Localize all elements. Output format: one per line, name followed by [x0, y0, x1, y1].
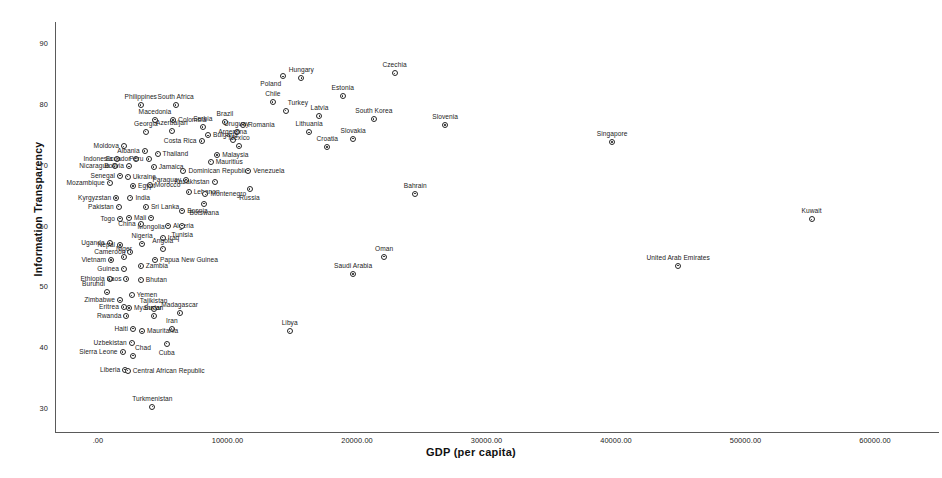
data-point-label: South Korea	[355, 108, 392, 115]
data-point-label: China	[118, 221, 135, 228]
data-point-label: Libya	[282, 320, 298, 327]
data-point-marker-icon	[442, 122, 448, 128]
data-point-marker-icon	[138, 277, 144, 283]
data-point-label: Peru	[129, 156, 143, 163]
data-point-label: Chad	[135, 345, 151, 352]
data-point-label: Brazil	[217, 111, 234, 118]
data-point-label: Estonia	[332, 85, 354, 92]
data-point-label: Philippines	[125, 94, 157, 101]
data-point-label: Madagascar	[161, 302, 198, 309]
data-point-marker-icon	[236, 143, 242, 149]
data-point-label: Angola	[152, 238, 173, 245]
data-point-marker-icon	[340, 93, 346, 99]
data-point-marker-icon	[179, 208, 185, 214]
data-point-label: Rwanda	[97, 313, 122, 320]
data-point-marker-icon	[173, 102, 179, 108]
data-point-marker-icon	[270, 99, 276, 105]
data-point-marker-icon	[212, 179, 218, 185]
data-point-label: Sudan	[144, 305, 163, 312]
data-point-marker-icon	[371, 116, 377, 122]
data-point-marker-icon	[155, 151, 161, 157]
data-point-marker-icon	[129, 292, 135, 298]
data-point-marker-icon	[381, 254, 387, 260]
data-point-marker-icon	[280, 73, 286, 79]
data-point-marker-icon	[180, 168, 186, 174]
data-point-marker-icon	[113, 195, 119, 201]
data-point-marker-icon	[108, 257, 114, 263]
data-point-marker-icon	[199, 138, 205, 144]
data-point-marker-icon	[116, 204, 122, 210]
data-point-label: Liberia	[100, 367, 120, 374]
data-point-marker-icon	[200, 124, 206, 130]
data-point-marker-icon	[130, 183, 136, 189]
data-point-marker-icon	[127, 195, 133, 201]
data-point-label: United Arab Emirates	[647, 255, 710, 262]
data-point-marker-icon	[675, 263, 681, 269]
data-point-label: Sri Lanka	[151, 204, 179, 211]
data-point-label: Mexico	[229, 135, 250, 142]
data-point-marker-icon	[130, 353, 136, 359]
plot-area: CzechiaHungaryPolandEstoniaChilePhilippi…	[0, 0, 942, 478]
data-point-label: Mauritania	[147, 328, 178, 335]
data-point-label: Egypt	[138, 183, 155, 190]
data-point-label: Serbia	[193, 116, 212, 123]
data-point-marker-icon	[283, 108, 289, 114]
data-point-marker-icon	[609, 139, 615, 145]
data-point-marker-icon	[125, 174, 131, 180]
data-point-label: Niger	[116, 246, 132, 253]
data-point-label: Singapore	[597, 131, 628, 138]
data-point-marker-icon	[117, 173, 123, 179]
data-point-label: Hungary	[289, 67, 314, 74]
data-point-label: Pakistan	[88, 204, 114, 211]
data-point-marker-icon	[125, 368, 131, 374]
data-point-marker-icon	[208, 159, 214, 165]
data-point-marker-icon	[165, 223, 171, 229]
data-point-marker-icon	[138, 221, 144, 227]
data-point-marker-icon	[298, 75, 304, 81]
data-point-label: Venezuela	[253, 168, 284, 175]
data-point-label: Turkey	[288, 100, 308, 107]
data-point-label: Romania	[248, 122, 275, 129]
data-point-marker-icon	[121, 266, 127, 272]
data-point-label: Kyrgyzstan	[78, 195, 111, 202]
data-point-marker-icon	[350, 136, 356, 142]
data-point-marker-icon	[160, 246, 166, 252]
data-point-marker-icon	[123, 276, 129, 282]
data-point-marker-icon	[139, 241, 145, 247]
data-point-label: Kuwait	[801, 208, 821, 215]
data-point-marker-icon	[148, 215, 154, 221]
scatter-chart: Information Transparency GDP (per capita…	[0, 0, 942, 478]
data-point-marker-icon	[138, 263, 144, 269]
data-point-marker-icon	[121, 254, 127, 260]
data-point-label: Moldova	[94, 143, 119, 150]
data-point-label: Bolivia	[104, 163, 124, 170]
data-point-marker-icon	[306, 129, 312, 135]
data-point-marker-icon	[412, 191, 418, 197]
data-point-marker-icon	[126, 163, 132, 169]
data-point-label: Bhutan	[146, 277, 167, 284]
data-point-marker-icon	[104, 289, 110, 295]
data-point-label: India	[135, 195, 150, 202]
data-point-marker-icon	[129, 340, 135, 346]
data-point-label: Central African Republic	[133, 368, 205, 375]
data-point-label: Eritrea	[99, 304, 119, 311]
data-point-marker-icon	[245, 168, 251, 174]
data-point-marker-icon	[120, 349, 126, 355]
data-point-label: Mozambique	[66, 180, 104, 187]
data-point-marker-icon	[151, 313, 157, 319]
data-point-marker-icon	[316, 113, 322, 119]
data-point-label: Macedonia	[139, 109, 172, 116]
data-point-label: Czechia	[382, 62, 406, 69]
data-point-marker-icon	[126, 305, 132, 311]
data-point-label: Haiti	[115, 326, 128, 333]
data-point-label: Togo	[101, 216, 116, 223]
data-point-label: Sierra Leone	[79, 349, 117, 356]
data-point-label: Papua New Guinea	[160, 257, 218, 264]
data-point-marker-icon	[201, 201, 207, 207]
data-point-label: Slovenia	[432, 114, 458, 121]
data-point-label: Laos	[107, 276, 122, 283]
data-point-label: Morocco	[155, 182, 181, 189]
data-point-marker-icon	[123, 313, 129, 319]
data-point-marker-icon	[139, 328, 145, 334]
data-point-label: Montenegro	[210, 191, 246, 198]
